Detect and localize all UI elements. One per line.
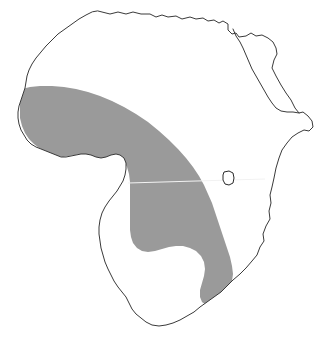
africa-range-map-figure xyxy=(0,0,324,352)
africa-map-svg xyxy=(0,0,324,352)
lake-victoria xyxy=(223,171,234,185)
